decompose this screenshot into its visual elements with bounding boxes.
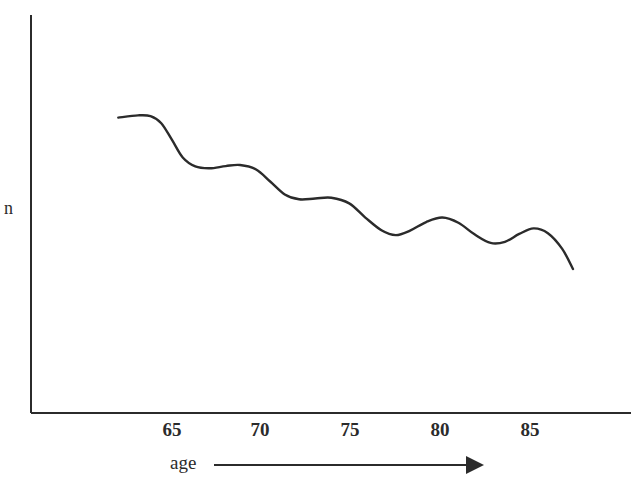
x-axis-caption: age [170, 452, 196, 474]
x-tick-label-80: 80 [420, 419, 460, 441]
x-tick-label-65: 65 [152, 419, 192, 441]
y-axis-label: n [4, 198, 13, 219]
x-tick-label-70: 70 [240, 419, 280, 441]
age-arrow-head-icon [466, 456, 484, 474]
chart-canvas [0, 0, 631, 485]
data-series-line [118, 115, 573, 269]
x-tick-label-75: 75 [330, 419, 370, 441]
chart-figure: n 65 70 75 80 85 age [0, 0, 631, 485]
x-tick-label-85: 85 [510, 419, 550, 441]
